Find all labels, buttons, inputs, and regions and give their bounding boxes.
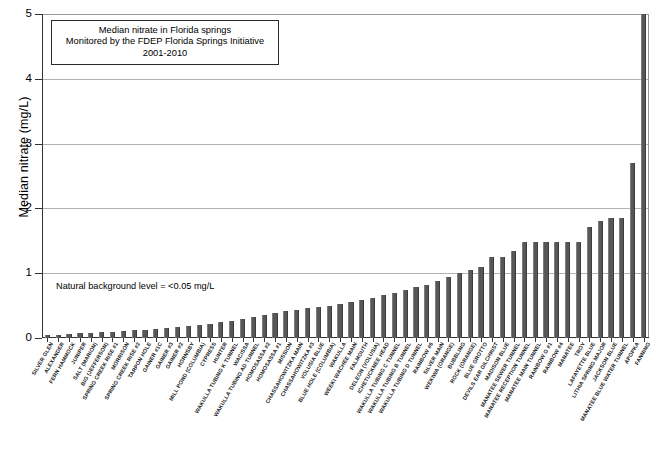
y-tick-label-5: 5 (8, 8, 32, 18)
bar (229, 321, 234, 338)
bar (587, 227, 592, 338)
bar (348, 302, 353, 338)
bar (522, 242, 527, 338)
bar (294, 310, 299, 339)
y-tick-mark-4 (35, 79, 42, 80)
bar (598, 221, 603, 338)
bar (121, 331, 126, 338)
bar (457, 273, 462, 338)
chart-title-box: Median nitrate in Florida springs Monito… (51, 20, 279, 65)
bar (478, 267, 483, 338)
bar (142, 330, 147, 338)
bar (489, 257, 494, 338)
bar (175, 327, 180, 338)
bar (446, 277, 451, 338)
y-tick-label-1: 1 (8, 267, 32, 277)
bar (608, 218, 613, 338)
bar (240, 319, 245, 338)
bar (272, 313, 277, 338)
bar (630, 163, 635, 338)
chart-title-line-2: Monitored by the FDEP Florida Springs In… (58, 36, 272, 47)
bar (533, 242, 538, 338)
y-tick-mark-1 (35, 273, 42, 274)
y-tick-label-0: 0 (8, 332, 32, 342)
bar (283, 311, 288, 338)
chart-title-line-1: Median nitrate in Florida springs (58, 25, 272, 36)
y-tick-mark-3 (35, 144, 42, 145)
y-tick-label-3: 3 (8, 138, 32, 148)
bar (251, 317, 256, 338)
bar (207, 324, 212, 338)
bar (511, 251, 516, 338)
bar (305, 308, 310, 338)
nitrate-bar-chart: Median nitrate (mg/L) 012345 SILVER GLEN… (0, 0, 653, 452)
chart-title-line-3: 2001-2010 (58, 48, 272, 59)
bar (359, 300, 364, 338)
bar (392, 293, 397, 338)
bar (327, 306, 332, 338)
y-tick-label-2: 2 (8, 202, 32, 212)
background-level-annotation: Natural background level = <0.05 mg/L (56, 281, 214, 291)
bar (218, 322, 223, 338)
bar (197, 325, 202, 338)
bar (641, 14, 646, 338)
bar (262, 315, 267, 338)
y-tick-label-4: 4 (8, 73, 32, 83)
bar (164, 328, 169, 338)
y-tick-mark-2 (35, 208, 42, 209)
y-tick-mark-5 (35, 14, 42, 15)
bar (576, 242, 581, 338)
bar (337, 304, 342, 338)
bar (565, 242, 570, 338)
bar (403, 290, 408, 338)
bar (500, 257, 505, 338)
bar (370, 298, 375, 338)
bar (435, 281, 440, 338)
bar (619, 218, 624, 338)
bar (468, 270, 473, 338)
bar (316, 307, 321, 338)
x-axis-labels: SILVER GLENALEXANDERFERN HAMMOCKJUNIPERS… (42, 341, 649, 452)
bar (186, 326, 191, 338)
bar (132, 330, 137, 338)
bar (554, 242, 559, 338)
bar (543, 242, 548, 338)
y-tick-mark-0 (35, 338, 42, 339)
bar (381, 295, 386, 338)
bar (413, 287, 418, 338)
bar (153, 329, 158, 338)
bar (424, 285, 429, 338)
